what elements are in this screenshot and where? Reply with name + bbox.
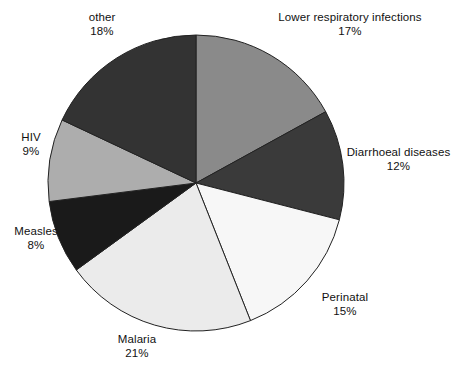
pie-label-value: 15% <box>300 304 390 318</box>
pie-label-hiv: HIV 9% <box>4 130 58 158</box>
pie-label-malaria: Malaria 21% <box>92 332 182 360</box>
pie-label-value: 9% <box>4 144 58 158</box>
pie-label-diarrhoeal-diseases: Diarrhoeal diseases 12% <box>342 145 455 173</box>
pie-label-value: 18% <box>66 24 138 38</box>
pie-label-value: 21% <box>92 346 182 360</box>
pie-label-name: Diarrhoeal diseases <box>342 145 455 159</box>
pie-label-value: 8% <box>2 238 70 252</box>
pie-slice-group <box>48 35 344 331</box>
pie-label-measles: Measles 8% <box>2 224 70 252</box>
pie-chart: Lower respiratory infections 17% Diarrho… <box>0 0 455 369</box>
pie-label-perinatal: Perinatal 15% <box>300 290 390 318</box>
pie-label-name: other <box>66 10 138 24</box>
pie-label-name: HIV <box>4 130 58 144</box>
pie-label-value: 12% <box>342 159 455 173</box>
pie-label-name: Measles <box>2 224 70 238</box>
pie-label-lower-respiratory-infections: Lower respiratory infections 17% <box>252 10 448 38</box>
pie-label-name: Perinatal <box>300 290 390 304</box>
pie-label-other: other 18% <box>66 10 138 38</box>
pie-label-name: Malaria <box>92 332 182 346</box>
pie-label-name: Lower respiratory infections <box>252 10 448 24</box>
pie-label-value: 17% <box>252 24 448 38</box>
